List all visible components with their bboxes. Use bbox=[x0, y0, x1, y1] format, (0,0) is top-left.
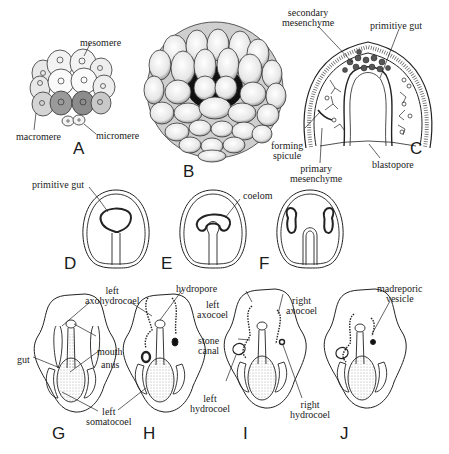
label-primitive-gut-d: primitive gut bbox=[32, 180, 84, 190]
label-mouth: mouth bbox=[97, 347, 123, 357]
label-right-axocoel: rightaxocoel bbox=[286, 296, 317, 316]
label-hydropore: hydropore bbox=[176, 284, 217, 294]
panel-letter-c: C bbox=[410, 140, 422, 157]
panel-e-larva bbox=[180, 190, 246, 268]
label-coelom: coelom bbox=[243, 191, 272, 201]
panel-letter-g: G bbox=[52, 425, 65, 442]
panel-letter-b: B bbox=[183, 163, 194, 180]
panel-d-e-leaders bbox=[89, 187, 240, 218]
panel-b-embryo bbox=[144, 22, 286, 162]
panel-letter-f: F bbox=[259, 255, 269, 272]
label-left-hydrocoel: lefthydrocoel bbox=[190, 394, 230, 414]
embryo-development-diagram bbox=[0, 0, 449, 454]
label-stone-canal: stonecanal bbox=[198, 336, 219, 356]
panel-f-larva bbox=[277, 190, 343, 268]
label-left-axocoel: leftaxocoel bbox=[197, 300, 228, 320]
label-forming-spicule: formingspicule bbox=[271, 141, 303, 161]
panel-letter-h: H bbox=[143, 425, 155, 442]
panel-c-gastrula bbox=[304, 42, 432, 148]
panel-letter-d: D bbox=[64, 255, 76, 272]
panel-letter-j: J bbox=[340, 425, 349, 442]
label-anus: anus bbox=[101, 360, 119, 370]
panel-d-larva bbox=[83, 190, 149, 268]
label-madreporic-vesicle: madreporicvesicle bbox=[377, 284, 423, 304]
label-gut: gut bbox=[17, 355, 30, 365]
label-left-somatocoel: leftsomatocoel bbox=[86, 407, 132, 427]
label-macromere: macromere bbox=[16, 132, 61, 142]
label-secondary-mesenchyme: secondarymesenchyme bbox=[282, 8, 334, 28]
label-micromere: micromere bbox=[96, 131, 139, 141]
label-left-axohydrocoel: leftaxohydrocoel bbox=[85, 286, 139, 306]
panel-letter-i: I bbox=[243, 425, 248, 442]
label-primitive-gut-c: primitive gut bbox=[370, 21, 422, 31]
label-primary-mesenchyme: primarymesenchyme bbox=[290, 164, 342, 184]
panel-letter-a: A bbox=[73, 140, 84, 157]
label-blastopore: blastopore bbox=[372, 160, 414, 170]
panel-j-larva bbox=[324, 289, 406, 408]
panel-letter-e: E bbox=[161, 255, 172, 272]
panel-a-embryo bbox=[30, 49, 115, 126]
label-right-hydrocoel: righthydrocoel bbox=[290, 400, 330, 420]
label-mesomere: mesomere bbox=[80, 38, 121, 48]
